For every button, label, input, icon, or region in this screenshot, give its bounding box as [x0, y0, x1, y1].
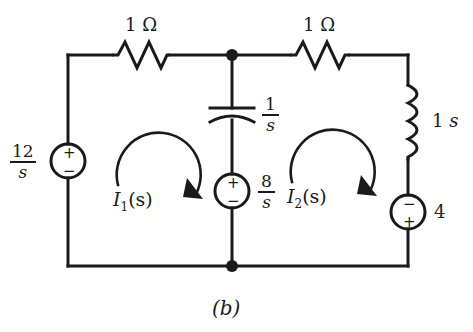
voltage-source-center-minus-sign: − — [227, 194, 240, 209]
voltage-source-left-plus-sign: + — [63, 146, 76, 161]
mesh-current-1-label: I1(s) — [113, 190, 153, 213]
resistor-right-label: 1 Ω — [303, 16, 335, 34]
inductor-symbol — [408, 85, 417, 159]
voltage-source-right-label: 4 — [434, 203, 445, 221]
resistor-left-symbol — [112, 42, 170, 68]
node-bottom-center-dot — [226, 260, 238, 272]
voltage-source-center-label: 8 s — [258, 173, 275, 211]
node-top-center-dot — [226, 49, 238, 61]
mesh-current-2-arg: (s) — [302, 185, 327, 207]
resistor-right-unit: Ω — [320, 14, 335, 35]
resistor-right-value: 1 — [303, 14, 314, 35]
voltage-source-center-plus-sign: + — [227, 176, 240, 191]
resistor-right-symbol — [290, 42, 350, 68]
mesh-current-1-arg: (s) — [128, 188, 153, 210]
voltage-source-left-minus-sign: − — [63, 164, 76, 179]
mesh-current-2-symbol: I — [287, 185, 295, 207]
voltage-source-left-label: 12 s — [10, 143, 36, 181]
resistor-left-value: 1 — [125, 14, 136, 35]
voltage-source-center-numerator: 8 — [259, 173, 274, 191]
mesh-current-2-subscript: 2 — [295, 197, 303, 211]
mesh-current-2-label: I2(s) — [287, 187, 327, 210]
circuit-diagram-figure: 1 Ω 1 Ω 1 s 1 s 12 s + − 8 s + − — [0, 0, 473, 332]
inductor-label: 1 s — [432, 112, 458, 130]
inductor-unit: s — [449, 110, 458, 131]
voltage-source-left-denominator: s — [16, 163, 29, 181]
figure-caption: (b) — [212, 298, 240, 318]
mesh-current-1-subscript: 1 — [121, 200, 129, 214]
voltage-source-right-plus-sign: + — [403, 215, 416, 230]
voltage-source-left-numerator: 12 — [10, 143, 36, 161]
capacitor-numerator: 1 — [263, 96, 278, 114]
resistor-left-label: 1 Ω — [125, 16, 157, 34]
voltage-source-center-denominator: s — [260, 193, 273, 211]
capacitor-denominator: s — [264, 116, 277, 134]
voltage-source-right-minus-sign: − — [403, 197, 416, 212]
capacitor-label: 1 s — [262, 96, 279, 134]
mesh-current-1-symbol: I — [113, 188, 121, 210]
inductor-value: 1 — [432, 110, 443, 131]
resistor-left-unit: Ω — [142, 14, 157, 35]
